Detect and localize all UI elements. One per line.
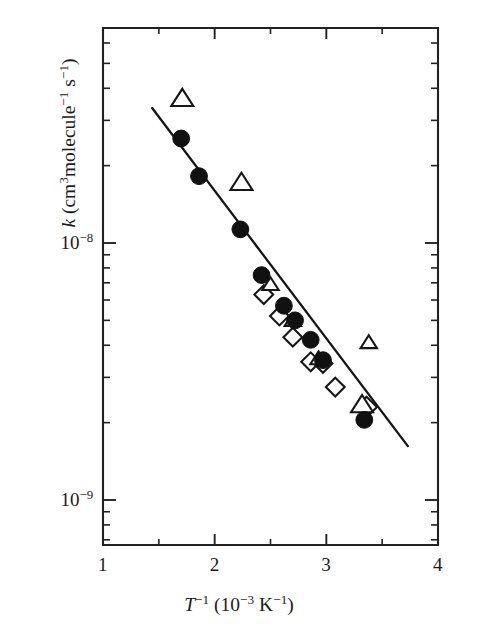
marker-filled-circle (253, 267, 270, 284)
y-tick-label-1e-9: 10−9 (61, 490, 94, 509)
marker-filled-circle (356, 411, 373, 428)
y-axis-label: k (cm3molecule−1 s−1) (58, 58, 79, 227)
fit-line (152, 108, 408, 446)
figure-container: 10−8 10−9 1 2 3 4 T−1 (10−3 K−1) k (cm3m… (0, 0, 478, 641)
marker-filled-circle (287, 312, 304, 329)
x-tick-label-4: 4 (433, 555, 443, 574)
y-axis-label-rotator: k (cm3molecule−1 s−1) (58, 0, 88, 298)
marker-filled-circle (315, 352, 332, 369)
marker-filled-circle (191, 168, 208, 185)
marker-filled-circle (276, 297, 293, 314)
x-tick-label-3: 3 (321, 555, 331, 574)
x-tick-label-2: 2 (210, 555, 220, 574)
data-markers (171, 89, 377, 428)
marker-open-diamond (283, 328, 302, 347)
marker-filled-circle (302, 331, 319, 348)
marker-filled-circle (232, 221, 249, 238)
marker-open-diamond (326, 378, 345, 397)
x-tick-label-1: 1 (98, 555, 108, 574)
fit-line-path (152, 108, 408, 446)
marker-open-triangle (230, 173, 252, 190)
x-axis-label: T−1 (10−3 K−1) (0, 594, 478, 616)
marker-filled-circle (173, 130, 190, 147)
marker-open-triangle (171, 89, 193, 106)
marker-open-triangle (361, 335, 377, 348)
